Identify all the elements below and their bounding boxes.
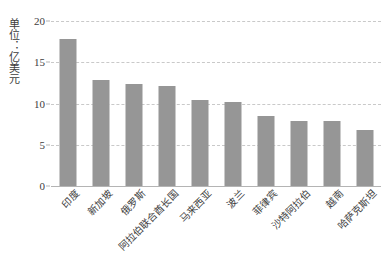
bar-slot (51, 21, 84, 186)
y-axis-title: 单位：亿美元 (2, 18, 20, 84)
bar-slot (315, 21, 348, 186)
bar[interactable] (92, 80, 109, 186)
x-tick-label: 菲律宾 (250, 188, 279, 217)
bar[interactable] (323, 121, 340, 186)
bar[interactable] (191, 100, 208, 186)
bar-slot (282, 21, 315, 186)
bar[interactable] (125, 84, 142, 186)
bar-slot (150, 21, 183, 186)
x-tick-label: 新加坡 (85, 188, 114, 217)
axis-baseline (51, 186, 381, 187)
bar-slot (183, 21, 216, 186)
bar-slot (249, 21, 282, 186)
bar-slot (117, 21, 150, 186)
x-tick-label: 俄罗斯 (118, 188, 147, 217)
y-tick-label: 10 (34, 98, 45, 110)
bar[interactable] (224, 102, 241, 186)
y-tick-mark (46, 186, 50, 187)
bar[interactable] (59, 39, 76, 186)
x-tick-label: 印度 (59, 188, 81, 210)
bar-slot (348, 21, 381, 186)
bar[interactable] (290, 121, 307, 186)
bar-series (51, 21, 381, 186)
y-tick-mark (46, 21, 50, 22)
y-tick-label: 5 (40, 139, 46, 151)
y-tick-mark (46, 144, 50, 145)
plot-area: 05101520 (51, 21, 381, 186)
y-tick-label: 0 (40, 180, 46, 192)
bar[interactable] (158, 86, 175, 186)
x-tick-label: 波兰 (224, 188, 246, 210)
bar[interactable] (257, 116, 274, 186)
bar[interactable] (356, 130, 373, 186)
x-tick-label: 越南 (323, 188, 345, 210)
y-tick-label: 15 (34, 56, 45, 68)
y-tick-mark (46, 62, 50, 63)
bar-slot (84, 21, 117, 186)
x-axis-labels: 印度新加坡俄罗斯阿拉伯联合酋长国马来西亚波兰菲律宾沙特阿拉伯越南哈萨克斯坦 (51, 188, 381, 278)
x-tick-label: 马来西亚 (177, 188, 213, 224)
x-tick-label: 阿拉伯联合酋长国 (116, 188, 180, 252)
y-tick-mark (46, 103, 50, 104)
bar-chart: 单位：亿美元 05101520 印度新加坡俄罗斯阿拉伯联合酋长国马来西亚波兰菲律… (0, 0, 390, 278)
bar-slot (216, 21, 249, 186)
y-tick-label: 20 (34, 15, 45, 27)
